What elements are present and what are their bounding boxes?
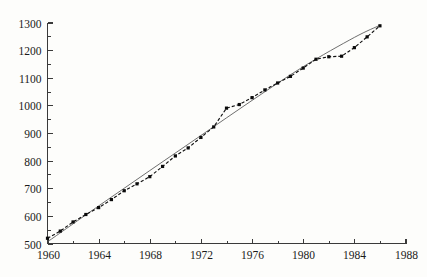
y-tick-label: 800 [24, 156, 42, 168]
data-point-marker [327, 55, 330, 58]
data-point-marker [276, 81, 279, 84]
data-point-marker [225, 107, 228, 110]
data-point-marker [366, 35, 369, 38]
data-point-marker [212, 125, 215, 128]
data-point-marker [289, 75, 292, 78]
x-tick-label: 1972 [190, 249, 213, 261]
x-tick-label-group: 19601964196819721976198019841988 [37, 249, 418, 261]
y-major-tick-group [48, 24, 53, 245]
x-tick-label: 1968 [139, 249, 162, 261]
x-tick-label: 1960 [37, 249, 60, 261]
data-point-marker [59, 229, 62, 232]
data-point-marker [46, 237, 49, 240]
y-tick-label: 1300 [19, 18, 42, 30]
data-point-marker [135, 182, 138, 185]
x-tick-label: 1980 [292, 249, 315, 261]
data-point-marker [238, 103, 241, 106]
data-point-marker [161, 165, 164, 168]
data-point-marker [84, 213, 87, 216]
data-point-marker [302, 66, 305, 69]
x-tick-label: 1976 [241, 249, 264, 261]
y-tick-label: 1200 [19, 45, 42, 57]
y-tick-label: 900 [24, 128, 42, 140]
x-tick-label: 1964 [88, 249, 111, 261]
y-tick-label: 700 [24, 183, 42, 195]
data-point-marker [97, 206, 100, 209]
data-point-marker [174, 154, 177, 157]
y-tick-label: 1000 [19, 100, 42, 112]
data-point-marker [71, 220, 74, 223]
data-point-marker [314, 58, 317, 61]
data-point-marker [340, 55, 343, 58]
chart-screenshot: 5006007008009001000110012001300 19601964… [0, 0, 427, 277]
line-chart: 5006007008009001000110012001300 19601964… [0, 0, 427, 277]
data-point-marker [123, 189, 126, 192]
data-point-marker [353, 46, 356, 49]
data-point-marker [199, 136, 202, 139]
data-point-marker [187, 146, 190, 149]
data-point-marker [378, 24, 381, 27]
y-tick-label: 600 [24, 211, 42, 223]
data-point-marker [110, 198, 113, 201]
data-point-marker [250, 96, 253, 99]
x-tick-label: 1988 [395, 249, 418, 261]
data-point-marker [148, 175, 151, 178]
y-tick-label-group: 5006007008009001000110012001300 [19, 18, 42, 251]
y-tick-label: 1100 [19, 73, 42, 85]
x-tick-label: 1984 [343, 249, 366, 261]
data-point-marker [263, 88, 266, 91]
